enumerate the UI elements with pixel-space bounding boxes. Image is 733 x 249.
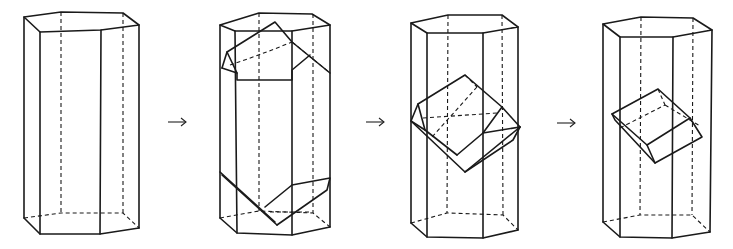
prism-4-inner-crystal [612, 89, 702, 163]
crystal-sequence-diagram [0, 0, 733, 249]
prism-2 [220, 13, 330, 235]
prism-3 [411, 15, 520, 238]
prism-4 [603, 17, 712, 238]
arrow-3-icon [557, 119, 575, 127]
prism-1 [24, 12, 139, 234]
arrow-2-icon [366, 118, 384, 126]
arrow-1-icon [168, 118, 186, 126]
